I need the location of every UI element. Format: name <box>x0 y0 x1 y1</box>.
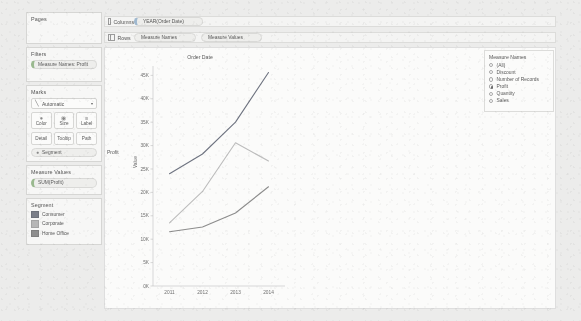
chevron-down-icon: ▾ <box>91 101 93 106</box>
rows-shelf-label: Rows <box>108 34 134 41</box>
rows-shelf-text: Rows <box>118 35 131 41</box>
mark-type-label: Automatic <box>42 101 91 107</box>
marks-tooltip-button[interactable]: Tooltip <box>54 132 75 144</box>
mark-type-dropdown[interactable]: ╲ Automatic ▾ <box>31 98 97 109</box>
radio-option-label: Number of Records <box>497 77 539 82</box>
radio-option-sales[interactable]: Sales <box>489 98 549 103</box>
legend-item-consumer[interactable]: Consumer <box>31 211 97 219</box>
y-tick-label: 30K <box>140 143 149 148</box>
marks-path-button[interactable]: Path <box>76 132 97 144</box>
radio-icon[interactable] <box>489 84 493 88</box>
marks-detail-label: Detail <box>35 136 47 141</box>
tableau-worksheet-window: Pages Filters Measure Names: Profit Mark… <box>0 0 581 321</box>
measure-names-filter-card: Measure Names (All)DiscountNumber of Rec… <box>484 50 554 112</box>
marks-path-label: Path <box>82 136 92 141</box>
x-tick-label: 2011 <box>164 290 175 295</box>
pages-title: Pages <box>31 16 97 22</box>
legend-label-home-office: Home Office <box>42 231 69 236</box>
series-line-corporate[interactable] <box>170 143 269 223</box>
x-tick-label: 2012 <box>197 290 208 295</box>
marks-size-button[interactable]: ◉ Size <box>54 112 75 129</box>
y-tick-label: 15K <box>140 213 149 218</box>
rows-pill-measure-values[interactable]: Measure Values <box>201 33 262 42</box>
legend-item-corporate[interactable]: Corporate <box>31 220 97 228</box>
measure-values-pill-sum-profit[interactable]: SUM(Profit) <box>31 178 97 187</box>
radio-option-quantity[interactable]: Quantity <box>489 91 549 96</box>
marks-title: Marks <box>31 89 97 95</box>
marks-label-label: Label <box>81 121 92 126</box>
rows-icon <box>108 34 115 41</box>
measure-values-title: Measure Values <box>31 169 97 175</box>
radio-icon[interactable] <box>489 99 493 103</box>
radio-icon[interactable] <box>489 63 493 67</box>
marks-color-button[interactable]: ● Color <box>31 112 52 129</box>
columns-shelf-text: Columns <box>114 19 134 25</box>
segment-legend-card: Segment Consumer Corporate Home Office <box>26 198 102 245</box>
y-tick-label: 20K <box>140 190 149 195</box>
segment-legend-title: Segment <box>31 202 97 208</box>
series-line-consumer[interactable] <box>170 73 269 174</box>
rows-shelf[interactable]: Rows Measure Names Measure Values <box>104 32 556 43</box>
columns-pill-year-order-date[interactable]: YEAR(Order Date) <box>134 17 203 26</box>
columns-shelf[interactable]: Columns YEAR(Order Date) <box>104 16 556 27</box>
color-icon: ● <box>36 150 39 155</box>
y-tick-label: 45K <box>140 73 149 78</box>
radio-option-label: Quantity <box>497 91 515 96</box>
radio-option-label: Profit <box>497 84 508 89</box>
measure-names-radio-list: (All)DiscountNumber of RecordsProfitQuan… <box>489 63 549 104</box>
legend-item-home-office[interactable]: Home Office <box>31 230 97 238</box>
marks-tooltip-label: Tooltip <box>57 136 71 141</box>
marks-color-label: Color <box>36 121 47 126</box>
legend-label-consumer: Consumer <box>42 212 65 217</box>
measure-values-card: Measure Values SUM(Profit) <box>26 165 102 194</box>
y-tick-label: 10K <box>140 237 149 242</box>
pages-card: Pages <box>26 12 102 44</box>
radio-option-discount[interactable]: Discount <box>489 70 549 75</box>
radio-option-label: (All) <box>497 63 506 68</box>
legend-label-corporate: Corporate <box>42 221 64 226</box>
line-chart-icon: ╲ <box>35 101 39 107</box>
filters-title: Filters <box>31 51 97 57</box>
mark-buttons-row-2: Detail Tooltip Path <box>31 132 97 144</box>
columns-icon <box>108 18 111 25</box>
y-tick-label: 5K <box>143 260 150 265</box>
radio-icon[interactable] <box>489 92 493 96</box>
mark-buttons-row-1: ● Color ◉ Size ≡ Label <box>31 112 97 129</box>
y-tick-label: 0K <box>143 284 150 289</box>
rows-pill-measure-names[interactable]: Measure Names <box>134 33 196 42</box>
radio-option-label: Discount <box>497 70 516 75</box>
filters-card: Filters Measure Names: Profit <box>26 47 102 82</box>
marks-card: Marks ╲ Automatic ▾ ● Color ◉ Size ≡ Lab… <box>26 85 102 162</box>
radio-option-label: Sales <box>497 98 509 103</box>
measure-names-filter-title: Measure Names <box>489 54 549 60</box>
line-chart-plot: 0K5K10K15K20K25K30K35K40K45K201120122013… <box>105 48 295 308</box>
legend-swatch-home-office <box>31 230 39 238</box>
marks-encoding-segment-label: Segment <box>42 150 62 155</box>
radio-icon[interactable] <box>489 70 493 74</box>
marks-detail-button[interactable]: Detail <box>31 132 52 144</box>
y-tick-label: 40K <box>140 96 149 101</box>
legend-swatch-corporate <box>31 220 39 228</box>
filter-pill-measure-names[interactable]: Measure Names: Profit <box>31 60 97 69</box>
columns-shelf-label: Columns <box>108 18 134 25</box>
marks-encoding-segment[interactable]: ● Segment <box>31 148 97 157</box>
y-tick-label: 25K <box>140 167 149 172</box>
radio-option-all[interactable]: (All) <box>489 63 549 68</box>
left-panel: Pages Filters Measure Names: Profit Mark… <box>26 12 102 309</box>
pages-dropzone[interactable] <box>31 25 97 39</box>
radio-option-number-of-records[interactable]: Number of Records <box>489 77 549 82</box>
filters-dropzone[interactable] <box>31 71 97 77</box>
y-tick-label: 35K <box>140 120 149 125</box>
chart-area: Order Date Profit Value 0K5K10K15K20K25K… <box>105 48 295 308</box>
radio-option-profit[interactable]: Profit <box>489 84 549 89</box>
x-tick-label: 2013 <box>230 290 241 295</box>
x-tick-label: 2014 <box>263 290 274 295</box>
marks-size-label: Size <box>59 121 68 126</box>
marks-label-button[interactable]: ≡ Label <box>76 112 97 129</box>
legend-swatch-consumer <box>31 211 39 219</box>
radio-icon[interactable] <box>489 77 493 81</box>
